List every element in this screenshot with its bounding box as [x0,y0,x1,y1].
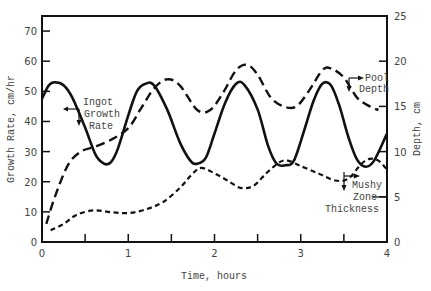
arrow-right-icon [349,76,364,81]
x-tick-label: 4 [384,248,390,259]
y-tick-label: 70 [24,26,37,37]
x-axis-title: Time, hours [181,271,247,282]
y-axis-title: Growth Rate, cm/hr [6,75,17,183]
y-tick-label: 20 [24,177,37,188]
annotation-pool-line2: Depth [359,84,389,95]
annotation-mushy-line3: Thickness [325,204,379,215]
y2-tick-label: 5 [394,192,400,203]
annotation-ingot-line2: Growth [84,109,120,120]
y2-tick-label: 0 [394,237,400,248]
annotation-ingot-growth-rate: Ingot Growth Rate [63,97,120,132]
x-tick-label: 0 [39,248,45,259]
y-tick-label: 0 [31,237,37,248]
y-tick-label: 40 [24,116,37,127]
annotation-pool-line1: Pool [365,73,389,84]
y-tick-label: 10 [24,207,37,218]
y2-tick-label: 20 [394,56,407,67]
annotation-mushy-zone-thickness: Mushy Zone Thickness [325,172,387,215]
annotation-mushy-line1: Mushy [352,180,382,191]
x-tick-label: 1 [125,248,131,259]
y2-tick-label: 10 [394,147,407,158]
y2-tick-label: 15 [394,101,407,112]
x-tick-label: 3 [298,248,304,259]
axis-tick-labels: 012340102030405060700510152025 [24,11,406,259]
y2-tick-label: 25 [394,11,407,22]
y-tick-label: 50 [24,86,37,97]
x-tick-label: 2 [211,248,217,259]
arrow-down-icon [342,172,347,191]
y2-axis-title: Depth, cm [412,102,423,156]
chart-canvas: 012340102030405060700510152025 Time, hou… [0,0,431,291]
y-tick-label: 30 [24,147,37,158]
annotation-ingot-line3: Rate [89,121,113,132]
annotation-pool-depth: Pool Depth [347,73,390,95]
annotation-ingot-line1: Ingot [83,97,113,108]
y-tick-label: 60 [24,56,37,67]
series-mushy-zone-thickness [51,159,387,231]
